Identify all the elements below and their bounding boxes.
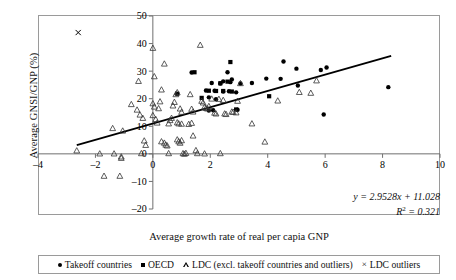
point-circle [250, 81, 254, 85]
point-triangle [140, 115, 146, 120]
y-tick-label: 50 [137, 10, 147, 21]
regression-equation: y = 2.9528x + 11.028 [353, 190, 440, 203]
legend-item-triangle: LDC (excl. takeoff countries and outlier… [183, 259, 353, 270]
point-circle [225, 70, 229, 74]
legend-item-label: LDC outliers [370, 259, 420, 270]
point-triangle [159, 87, 165, 92]
x-tick-label: 0 [150, 159, 155, 170]
legend-item-cross: ×LDC outliers [362, 259, 420, 270]
point-circle [324, 65, 328, 69]
cross-icon: × [362, 260, 367, 269]
y-tick-label: –10 [131, 176, 147, 187]
point-circle [386, 85, 390, 89]
circle-icon [58, 263, 62, 267]
point-circle [264, 76, 268, 80]
point-circle [319, 68, 323, 72]
point-square [230, 89, 234, 93]
point-square [192, 70, 196, 74]
point-triangle [308, 90, 314, 95]
point-circle [281, 59, 285, 63]
triangle-icon [183, 262, 189, 267]
square-icon [141, 263, 145, 267]
point-square [225, 80, 229, 84]
y-tick-label: 20 [137, 93, 147, 104]
point-circle [322, 112, 326, 116]
point-triangle [117, 173, 123, 178]
trendline-layer [77, 56, 391, 145]
trend-line [77, 56, 391, 145]
y-tick-label: –20 [131, 203, 147, 214]
point-triangle [179, 109, 185, 114]
series-cross [76, 30, 81, 35]
point-triangle [217, 150, 223, 155]
point-triangle [137, 112, 143, 117]
point-triangle [128, 101, 134, 106]
y-tick-label: 40 [137, 38, 147, 49]
point-triangle [118, 154, 124, 159]
point-square [228, 60, 232, 64]
y-tick-label: 30 [137, 66, 147, 77]
x-tick-label: 8 [380, 159, 385, 170]
point-triangle [166, 121, 172, 126]
r-squared-exponent: 2 [402, 205, 406, 213]
axes-layer: –20–1001020304050–4–20246810 [32, 10, 445, 214]
legend-item-square: OECD [141, 259, 174, 270]
point-circle [210, 81, 214, 85]
x-tick-label: 4 [265, 159, 270, 170]
point-triangle [262, 139, 268, 144]
point-triangle [157, 99, 163, 104]
point-triangle [249, 121, 255, 126]
point-square [207, 89, 211, 93]
point-triangle [170, 103, 176, 108]
x-tick-label: 10 [435, 159, 445, 170]
point-triangle [110, 125, 116, 130]
point-circle [278, 77, 282, 81]
x-tick-label: 2 [208, 159, 213, 170]
point-triangle [275, 98, 281, 103]
point-square [214, 89, 218, 93]
point-triangle [166, 150, 172, 155]
point-triangle [151, 73, 157, 78]
point-triangle [151, 104, 157, 109]
point-triangle [197, 42, 203, 47]
point-cross [76, 30, 81, 35]
x-tick-label: –2 [89, 159, 100, 170]
point-triangle [111, 151, 117, 156]
point-triangle [136, 78, 142, 83]
point-circle [296, 83, 300, 87]
point-triangle [141, 138, 147, 143]
y-axis-label: Average GNSI/GNP (%) [28, 21, 39, 191]
y-tick-label: 0 [142, 148, 147, 159]
point-circle [234, 90, 238, 94]
point-triangle [101, 173, 107, 178]
point-triangle [202, 151, 208, 156]
point-triangle [200, 100, 206, 105]
legend-item-label: OECD [148, 259, 174, 270]
point-triangle [190, 133, 196, 138]
point-triangle [134, 107, 140, 112]
point-triangle [187, 91, 193, 96]
point-circle [294, 66, 298, 70]
legend-item-label: LDC (excl. takeoff countries and outlier… [192, 259, 353, 270]
legend-item-label: Takeoff countries [65, 259, 132, 270]
x-tick-label: 6 [323, 159, 328, 170]
point-square [267, 94, 271, 98]
point-triangle [97, 151, 103, 156]
point-triangle [171, 99, 177, 104]
point-square [218, 81, 222, 85]
series-circle [189, 59, 390, 116]
point-square [221, 89, 225, 93]
chart-legend: Takeoff countriesOECDLDC (excl. takeoff … [38, 255, 440, 274]
r-squared: R2 = 0.321 [353, 203, 440, 218]
data-points-layer [74, 30, 391, 178]
r-squared-value: = 0.321 [408, 206, 440, 217]
x-axis-label: Average growth rate of real per capia GN… [38, 231, 440, 242]
point-triangle [296, 89, 302, 94]
point-triangle [161, 61, 167, 66]
legend-item-circle: Takeoff countries [58, 259, 132, 270]
regression-annotation: y = 2.9528x + 11.028 R2 = 0.321 [353, 190, 440, 218]
chart-root: –20–1001020304050–4–20246810 Average GNS… [0, 0, 456, 280]
point-triangle [74, 148, 80, 153]
